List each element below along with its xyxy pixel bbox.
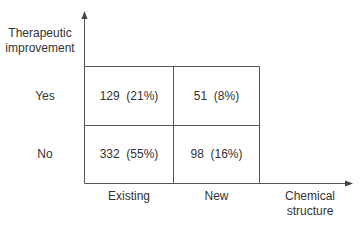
x-axis-title: Chemical structure bbox=[265, 189, 355, 219]
y-axis-title: Therapeutic improvement bbox=[0, 26, 80, 56]
y-axis-arrow-icon bbox=[82, 11, 88, 19]
row-label-yes: Yes bbox=[20, 89, 70, 104]
row-label-no: No bbox=[20, 147, 70, 162]
cell-yes-existing: 129 (21%) bbox=[85, 89, 173, 104]
cell-yes-new: 51 (8%) bbox=[174, 89, 259, 104]
column-label-existing: Existing bbox=[85, 189, 173, 204]
cell-no-new: 98 (16%) bbox=[174, 147, 259, 162]
cell-no-existing: 332 (55%) bbox=[85, 147, 173, 162]
x-axis-arrow-icon bbox=[345, 181, 353, 187]
column-label-new: New bbox=[174, 189, 259, 204]
